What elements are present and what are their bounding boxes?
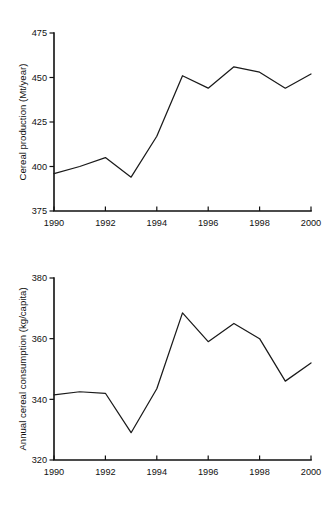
x-axis-tick-label: 1998	[249, 467, 269, 477]
x-axis-tick-label: 1996	[198, 218, 218, 228]
y-axis-tick-label: 360	[32, 334, 47, 344]
y-axis-tick-labels-consumption: 320340360380	[32, 273, 47, 465]
y-axis-tick-labels-production: 375400425450475	[32, 28, 47, 216]
x-axis-tick-label: 1992	[95, 218, 115, 228]
x-axis-tick-label: 1990	[44, 218, 64, 228]
chart-cereal-production: Cereal production (Mt/year) 375400425450…	[0, 0, 331, 255]
x-axis-tick-label: 1998	[249, 218, 269, 228]
x-axis-tick-label: 1996	[198, 467, 218, 477]
axis-ticks-consumption	[50, 278, 312, 460]
cereal-consumption-plot: Annual cereal consumption (kg/capita) 32…	[0, 253, 331, 509]
x-axis-tick-label: 1992	[95, 467, 115, 477]
x-axis-tick-label: 2000	[301, 467, 321, 477]
y-axis-tick-label: 320	[32, 455, 47, 465]
y-axis-tick-label: 475	[32, 28, 47, 38]
y-axis-tick-label: 340	[32, 395, 47, 405]
cereal-production-plot: Cereal production (Mt/year) 375400425450…	[0, 0, 331, 255]
y-axis-title-consumption: Annual cereal consumption (kg/capita)	[17, 287, 28, 450]
data-series-production	[54, 67, 311, 177]
x-axis-tick-label: 1994	[147, 218, 167, 228]
y-axis-tick-label: 400	[32, 162, 47, 172]
axis-lines-production	[54, 33, 311, 211]
chart-page: Cereal production (Mt/year) 375400425450…	[0, 0, 331, 509]
axis-ticks-production	[50, 33, 312, 211]
y-axis-title-text: Annual cereal consumption (kg/capita)	[17, 287, 28, 450]
x-axis-tick-labels-production: 199019921994199619982000	[44, 218, 321, 228]
y-axis-tick-label: 380	[32, 273, 47, 283]
y-axis-tick-label: 450	[32, 73, 47, 83]
axis-lines-consumption	[54, 278, 311, 460]
y-axis-tick-label: 375	[32, 206, 47, 216]
data-series-consumption	[54, 313, 311, 433]
y-axis-title-text: Cereal production (Mt/year)	[17, 64, 28, 181]
chart-cereal-consumption: Annual cereal consumption (kg/capita) 32…	[0, 253, 331, 509]
x-axis-tick-label: 1994	[147, 467, 167, 477]
y-axis-tick-label: 425	[32, 117, 47, 127]
x-axis-tick-labels-consumption: 199019921994199619982000	[44, 467, 321, 477]
x-axis-tick-label: 1990	[44, 467, 64, 477]
y-axis-title-production: Cereal production (Mt/year)	[17, 64, 28, 181]
x-axis-tick-label: 2000	[301, 218, 321, 228]
